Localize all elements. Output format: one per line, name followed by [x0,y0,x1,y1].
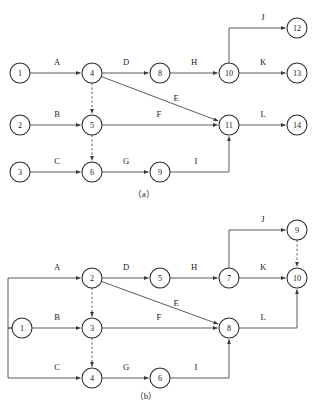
edge-b-L-8-to-10 [239,290,297,329]
edge-label-a-A: A [54,57,61,67]
edge-label-b-D: D [123,262,129,272]
edge-label-a-C: C [54,156,60,166]
node-label: 1 [18,69,22,78]
edge-label-b-F: F [157,312,162,322]
edge-label-a-E: E [173,93,178,103]
edge-label-b-B: B [54,312,60,322]
node-label: 8 [158,69,162,78]
node-a-12: 12 [287,18,307,38]
edge-label-a-I: I [195,156,198,166]
node-a-8: 8 [150,63,170,83]
node-a-2: 2 [10,115,30,135]
edge-label-b-H: H [191,262,197,272]
node-b-9: 9 [287,220,307,240]
node-label: 2 [90,274,94,283]
node-label: 7 [227,274,231,283]
node-b-5: 5 [150,268,170,288]
edge-label-b-G: G [123,362,129,372]
node-b-10: 10 [287,268,307,288]
node-label: 1 [20,324,24,333]
edge-a-J-10-to-12 [229,28,286,63]
edge-label-b-J: J [261,214,265,224]
edge-label-b-A: A [54,262,61,272]
node-a-4: 4 [82,63,102,83]
figure-canvas: 12345689101112131412345678910 ABCDEFGHIJ… [0,0,326,420]
node-label: 10 [225,69,233,78]
node-a-3: 3 [10,162,30,182]
node-b-8: 8 [219,318,239,338]
edge-label-a-L: L [260,109,265,119]
node-a-5: 5 [82,115,102,135]
aoe-network-diagrams: 12345689101112131412345678910 ABCDEFGHIJ… [0,0,326,420]
node-label: 9 [295,226,299,235]
node-label: 3 [90,324,94,333]
edge-label-a-B: B [54,109,60,119]
edge-b-I-6-to-8 [170,340,229,379]
node-b-4: 4 [82,368,102,388]
node-label: 12 [293,24,301,33]
edge-label-a-F: F [157,109,162,119]
node-b-6: 6 [150,368,170,388]
edge-label-b-I: I [195,362,198,372]
edge-b-J-7-to-9 [229,230,286,268]
node-a-11: 11 [219,115,239,135]
edge-label-a-H: H [191,57,197,67]
node-a-10: 10 [219,63,239,83]
node-label: 3 [18,168,22,177]
caption-a: （a） [133,189,155,199]
node-label: 5 [90,121,94,130]
nodes-layer: 12345689101112131412345678910 [10,18,307,388]
node-a-14: 14 [287,115,307,135]
node-label: 11 [225,121,233,130]
edge-label-a-D: D [123,57,129,67]
node-label: 5 [158,274,162,283]
edge-label-a-K: K [260,57,267,67]
node-a-13: 13 [287,63,307,83]
edge-label-a-G: G [123,156,129,166]
edge-label-b-L: L [260,312,265,322]
node-a-1: 1 [10,63,30,83]
node-label: 4 [90,374,94,383]
node-b-7: 7 [219,268,239,288]
node-b-2: 2 [82,268,102,288]
edge-a-I-9-to-11 [170,137,229,173]
edges-layer [8,28,297,378]
node-label: 13 [293,69,301,78]
node-a-9: 9 [150,162,170,182]
edge-label-a-J: J [261,12,265,22]
node-label: 10 [293,274,301,283]
node-label: 14 [293,121,301,130]
node-a-6: 6 [82,162,102,182]
edge-label-b-C: C [54,362,60,372]
node-label: 4 [90,69,94,78]
node-label: 9 [158,168,162,177]
node-label: 2 [18,121,22,130]
caption-b: （b） [135,391,157,401]
edge-label-b-E: E [173,298,178,308]
captions-layer: （a）（b） [133,189,157,401]
node-label: 6 [158,374,162,383]
node-label: 6 [90,168,94,177]
edge-label-b-K: K [260,262,267,272]
node-b-3: 3 [82,318,102,338]
node-b-1: 1 [12,318,32,338]
node-label: 8 [227,324,231,333]
